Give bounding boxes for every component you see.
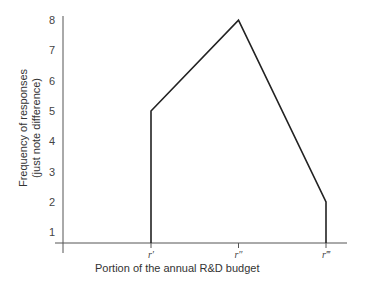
x-category-labels: r′r″r‴: [148, 249, 331, 260]
frequency-polygon: [151, 20, 326, 243]
y-tick-label: 8: [49, 14, 55, 26]
x-category-label: r‴: [322, 249, 331, 260]
y-tick-label: 4: [49, 135, 55, 147]
y-axis-title-line2: (just note difference): [30, 69, 43, 187]
y-tick-labels: 12345678: [49, 14, 55, 238]
y-tick-label: 7: [49, 44, 55, 56]
y-tick-label: 6: [49, 75, 55, 87]
x-category-label: r″: [234, 249, 243, 260]
x-axis-title: Portion of the annual R&D budget: [95, 262, 260, 274]
y-tick-label: 5: [49, 105, 55, 117]
y-tick-label: 3: [49, 166, 55, 178]
y-tick-label: 1: [49, 226, 55, 238]
x-category-label: r′: [148, 249, 155, 260]
y-tick-label: 2: [49, 196, 55, 208]
chart-canvas: 12345678 r′r″r‴: [0, 0, 367, 289]
y-axis-title-line1: Frequency of responses: [17, 69, 30, 187]
x-tick-marks: [151, 243, 326, 248]
axes: [55, 16, 347, 253]
